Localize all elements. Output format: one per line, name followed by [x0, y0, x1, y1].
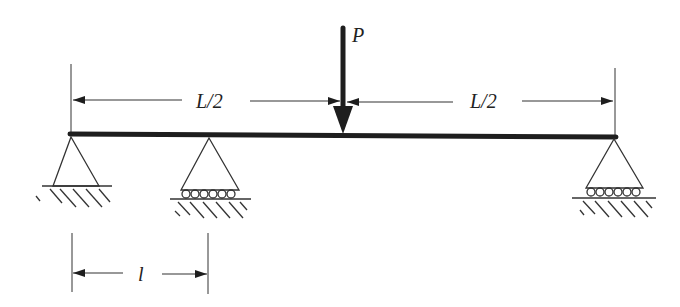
beam — [70, 134, 616, 137]
dimension-label-support-spacing: l — [138, 263, 144, 285]
dimension-right-half: L/2 — [347, 90, 613, 112]
roller-support-right — [572, 139, 656, 217]
arrow-down-icon — [333, 106, 353, 134]
dimension-support-spacing: l — [72, 233, 208, 294]
pin-support-left — [36, 137, 112, 207]
dimension-left-half: L/2 — [73, 90, 340, 112]
beam-diagram: L/2 L/2 P — [0, 0, 680, 307]
dimension-label-right-half: L/2 — [469, 90, 497, 112]
roller-support-middle — [170, 138, 251, 218]
load-label: P — [351, 24, 364, 46]
dimension-label-left-half: L/2 — [195, 90, 223, 112]
point-load-arrow: P — [333, 24, 364, 134]
